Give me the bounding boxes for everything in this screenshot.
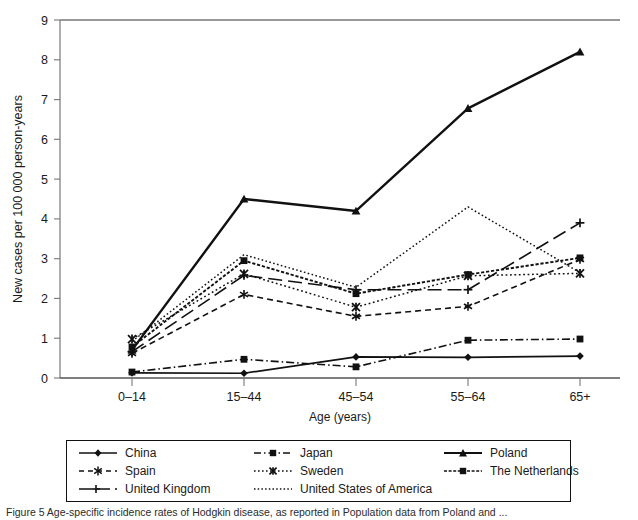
legend-swatch-solid-diamond	[77, 446, 119, 460]
data-point	[464, 354, 472, 362]
legend-item-the-netherlands[interactable]: The Netherlands	[442, 462, 582, 480]
data-point	[128, 335, 136, 344]
chart-area: 9 8 7 6 5 4 3 2 1 0 New cases per 100 00…	[0, 0, 638, 436]
data-point	[465, 337, 472, 344]
legend-label: Japan	[300, 446, 333, 460]
legend-label: United Kingdom	[125, 482, 210, 496]
y-tick-label: 5	[41, 173, 48, 187]
data-point	[576, 218, 585, 227]
data-point	[576, 48, 585, 56]
legend-swatch-longdash-plus	[77, 482, 119, 496]
legend-label: Sweden	[300, 464, 343, 478]
legend-label: United States of America	[300, 482, 432, 496]
data-point	[576, 352, 584, 360]
x-axis-title: Age (years)	[309, 410, 371, 424]
data-point	[240, 271, 249, 280]
y-axis-title: New cases per 100 000 person-years	[11, 95, 25, 303]
y-tick-label: 2	[41, 292, 48, 306]
series-united-kingdom	[128, 218, 585, 356]
legend-item-china[interactable]: China	[77, 444, 252, 462]
series-sweden	[128, 269, 584, 343]
y-axis-ticks	[54, 20, 60, 378]
x-tick-label: 45–54	[339, 390, 374, 404]
legend-swatch-fine-dash-square	[442, 464, 484, 478]
x-tick-label: 65+	[569, 390, 590, 404]
legend-swatch-dotted-x	[252, 464, 294, 478]
y-tick-label: 7	[41, 93, 48, 107]
legend-item-japan[interactable]: Japan	[252, 444, 442, 462]
x-axis-ticks	[132, 378, 580, 386]
data-point	[465, 271, 472, 278]
data-point	[464, 285, 473, 294]
x-tick-label: 55–64	[451, 390, 486, 404]
legend-swatch-solid-triangle	[442, 446, 484, 460]
legend-swatch-dashed-asterisk	[77, 464, 119, 478]
series-united-states-of-america	[132, 207, 580, 341]
y-tick-label: 4	[41, 212, 48, 226]
series-layer	[128, 48, 585, 377]
line-chart: 9 8 7 6 5 4 3 2 1 0 New cases per 100 00…	[0, 0, 638, 436]
legend-label: Poland	[490, 446, 527, 460]
legend: China Japan Poland	[66, 440, 571, 502]
legend-label: China	[125, 446, 156, 460]
legend-item-united-kingdom[interactable]: United Kingdom	[77, 480, 252, 498]
legend-grid: China Japan Poland	[67, 441, 570, 501]
y-tick-label: 9	[41, 14, 48, 28]
data-point	[352, 303, 360, 312]
data-point	[240, 369, 248, 377]
y-tick-label: 0	[41, 372, 48, 386]
legend-item-spain[interactable]: Spain	[77, 462, 252, 480]
figure-caption: Figure 5 Age-specific incidence rates of…	[6, 506, 632, 519]
data-point	[241, 356, 248, 363]
data-point	[352, 353, 360, 361]
y-axis-tick-labels: 9 8 7 6 5 4 3 2 1 0	[41, 14, 48, 386]
y-tick-label: 6	[41, 133, 48, 147]
legend-item-poland[interactable]: Poland	[442, 444, 582, 462]
data-point	[241, 257, 248, 264]
x-tick-label: 15–44	[227, 390, 262, 404]
data-point	[129, 369, 136, 376]
figure-panel: 9 8 7 6 5 4 3 2 1 0 New cases per 100 00…	[0, 0, 638, 520]
data-point	[353, 363, 360, 370]
data-point	[577, 336, 584, 343]
legend-item-united-states-of-america[interactable]: United States of America	[252, 480, 442, 498]
y-tick-label: 3	[41, 252, 48, 266]
y-tick-label: 1	[41, 332, 48, 346]
x-axis-tick-labels: 0–14 15–44 45–54 55–64 65+	[118, 390, 591, 404]
legend-swatch-dashdot-square	[252, 446, 294, 460]
legend-swatch-dotted-plain	[252, 482, 294, 496]
data-point	[240, 290, 248, 299]
legend-label: Spain	[125, 464, 156, 478]
legend-label: The Netherlands	[490, 464, 579, 478]
data-point	[577, 254, 584, 261]
y-tick-label: 8	[41, 53, 48, 67]
legend-item-sweden[interactable]: Sweden	[252, 462, 442, 480]
series-the-netherlands	[129, 254, 584, 350]
x-tick-label: 0–14	[118, 390, 146, 404]
